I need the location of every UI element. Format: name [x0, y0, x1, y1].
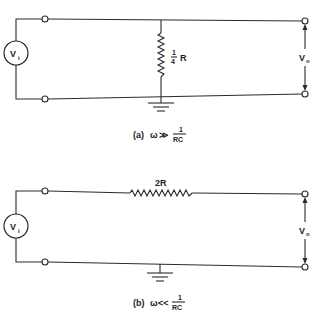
resistor-b-label: 2R: [155, 178, 167, 188]
output-terminal-b-top: [302, 191, 308, 197]
caption-b-prefix: (b): [133, 298, 145, 308]
output-b-subscript: o: [306, 231, 310, 237]
wire-b-top-left: [16, 191, 42, 214]
source-a-label: V: [10, 49, 16, 59]
output-terminal-b-bottom: [302, 264, 308, 270]
output-a-subscript: o: [306, 58, 310, 64]
input-terminal-b-bottom: [42, 259, 48, 265]
circuit-diagrams: V i 1 4 R V o: [0, 0, 316, 315]
input-terminal-b-top: [42, 188, 48, 194]
output-b-label: V: [299, 226, 305, 236]
output-terminal-a-top: [302, 18, 308, 24]
caption-b-omega: ω: [150, 298, 158, 308]
caption-a-prefix: (a): [133, 130, 144, 140]
caption-a-denominator: RC: [173, 136, 183, 143]
ground-b-icon: [147, 264, 173, 281]
wire-b-top-rail-right: [192, 193, 302, 194]
caption-b: (b) ω << 1 RC: [133, 294, 185, 311]
wire-a-bottom-rail: [48, 94, 302, 99]
resistor-b-series-icon: [130, 190, 192, 196]
wire-b-top-rail-left: [48, 191, 130, 193]
input-terminal-a-top: [42, 16, 48, 22]
output-terminal-a-bottom: [302, 91, 308, 97]
ground-a-icon: [148, 103, 174, 111]
circuit-b: V i 2R V o (b) ω <<: [4, 178, 310, 311]
caption-b-denominator: RC: [172, 304, 182, 311]
caption-b-relation: <<: [158, 298, 169, 308]
caption-a-relation: ≫: [159, 130, 168, 140]
resistor-a-label: R: [180, 53, 187, 63]
source-b-label: V: [10, 222, 16, 232]
input-terminal-a-bottom: [42, 96, 48, 102]
circuit-a: V i 1 4 R V o: [4, 16, 310, 143]
wire-a-top-rail: [48, 19, 302, 21]
caption-a: (a) ω ≫ 1 RC: [133, 126, 186, 143]
wire-b-bottom-left: [16, 238, 42, 262]
resistor-a-denominator: 4: [171, 58, 175, 65]
wire-b-bottom-rail: [48, 262, 302, 267]
resistor-a-shunt-icon: [158, 33, 164, 77]
wire-a-top-left: [16, 19, 42, 41]
caption-a-numerator: 1: [179, 126, 183, 133]
output-a-label: V: [299, 53, 305, 63]
resistor-a-numerator: 1: [172, 49, 176, 56]
wire-a-bottom-left: [16, 65, 42, 99]
caption-a-omega: ω: [150, 130, 158, 140]
caption-b-numerator: 1: [178, 294, 182, 301]
